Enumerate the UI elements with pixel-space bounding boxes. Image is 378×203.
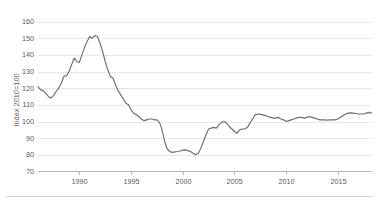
y-axis-title-text: Index 2010=100 xyxy=(12,73,21,126)
y-tick-label: 110 xyxy=(23,100,34,109)
x-tick-label: 2005 xyxy=(227,177,243,186)
y-tick-label: 150 xyxy=(22,34,34,43)
y-tick-label: 120 xyxy=(22,84,34,93)
x-tick-label: 2010 xyxy=(279,177,295,186)
gridlines xyxy=(38,23,372,173)
y-tick-label: 80 xyxy=(26,150,34,159)
series-line-index xyxy=(38,36,371,155)
y-tick-label: 130 xyxy=(22,67,34,76)
chart-figure: 708090100110120130140150160 199019952000… xyxy=(0,0,378,203)
y-tick-label: 70 xyxy=(26,167,34,176)
y-tick-label: 140 xyxy=(22,50,34,59)
x-axis-tick-labels: 199019952000200520102015 xyxy=(72,177,347,186)
y-tick-label: 100 xyxy=(22,117,34,126)
x-tick-label: 1990 xyxy=(72,177,88,186)
y-tick-label: 90 xyxy=(26,134,34,143)
x-tick-label: 1995 xyxy=(124,177,140,186)
x-tick-label: 2015 xyxy=(331,177,347,186)
x-tickmarks xyxy=(80,172,339,175)
y-tick-label: 160 xyxy=(22,17,34,26)
y-axis-title: Index 2010=100 xyxy=(12,73,21,126)
line-chart: 708090100110120130140150160 199019952000… xyxy=(0,0,378,203)
data-series-line xyxy=(38,36,371,155)
y-axis-tick-labels: 708090100110120130140150160 xyxy=(22,17,34,176)
x-tick-label: 2000 xyxy=(176,177,192,186)
